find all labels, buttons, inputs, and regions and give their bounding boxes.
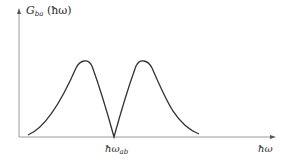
- y-axis-arrow-icon: [17, 8, 21, 14]
- spectrum-curve: [28, 61, 199, 137]
- resonance-marker-label: ħωab: [105, 143, 128, 156]
- y-axis-label: Gba (ħω): [26, 4, 72, 18]
- x-axis-arrow-icon: [270, 135, 276, 139]
- x-axis-label: ħω: [258, 143, 273, 154]
- diagram-canvas: [0, 0, 283, 162]
